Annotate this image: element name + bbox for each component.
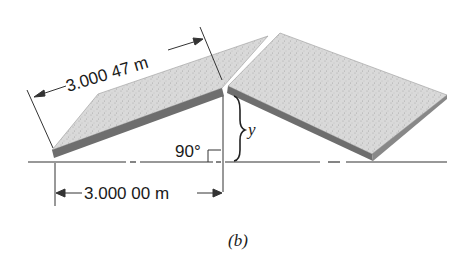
height-brace (234, 96, 245, 161)
slab-diagram: 3.000 47 m 90° y 3.000 00 m (b) (0, 0, 461, 255)
height-label: y (246, 120, 256, 139)
angle-label: 90° (175, 142, 201, 161)
figure-caption: (b) (228, 231, 248, 250)
right-slab (227, 33, 447, 161)
right-angle-marker (208, 150, 221, 162)
horizontal-length-label: 3.000 00 m (84, 184, 169, 203)
